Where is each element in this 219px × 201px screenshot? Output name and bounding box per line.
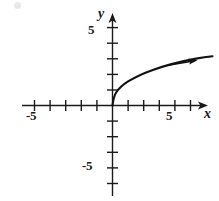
graph-figure: -5 5 5 -5 x y [0, 0, 219, 201]
coordinate-plane-svg [0, 0, 219, 201]
y-axis-tick-label-negative-5: -5 [82, 158, 92, 174]
square-root-curve [113, 56, 213, 105]
x-axis-label: x [204, 106, 211, 122]
x-axis-tick-label-negative-5: -5 [26, 108, 36, 124]
y-axis-label: y [98, 6, 104, 22]
x-axis-tick-label-positive-5: 5 [166, 108, 172, 124]
y-axis-tick-label-positive-5: 5 [88, 22, 94, 38]
